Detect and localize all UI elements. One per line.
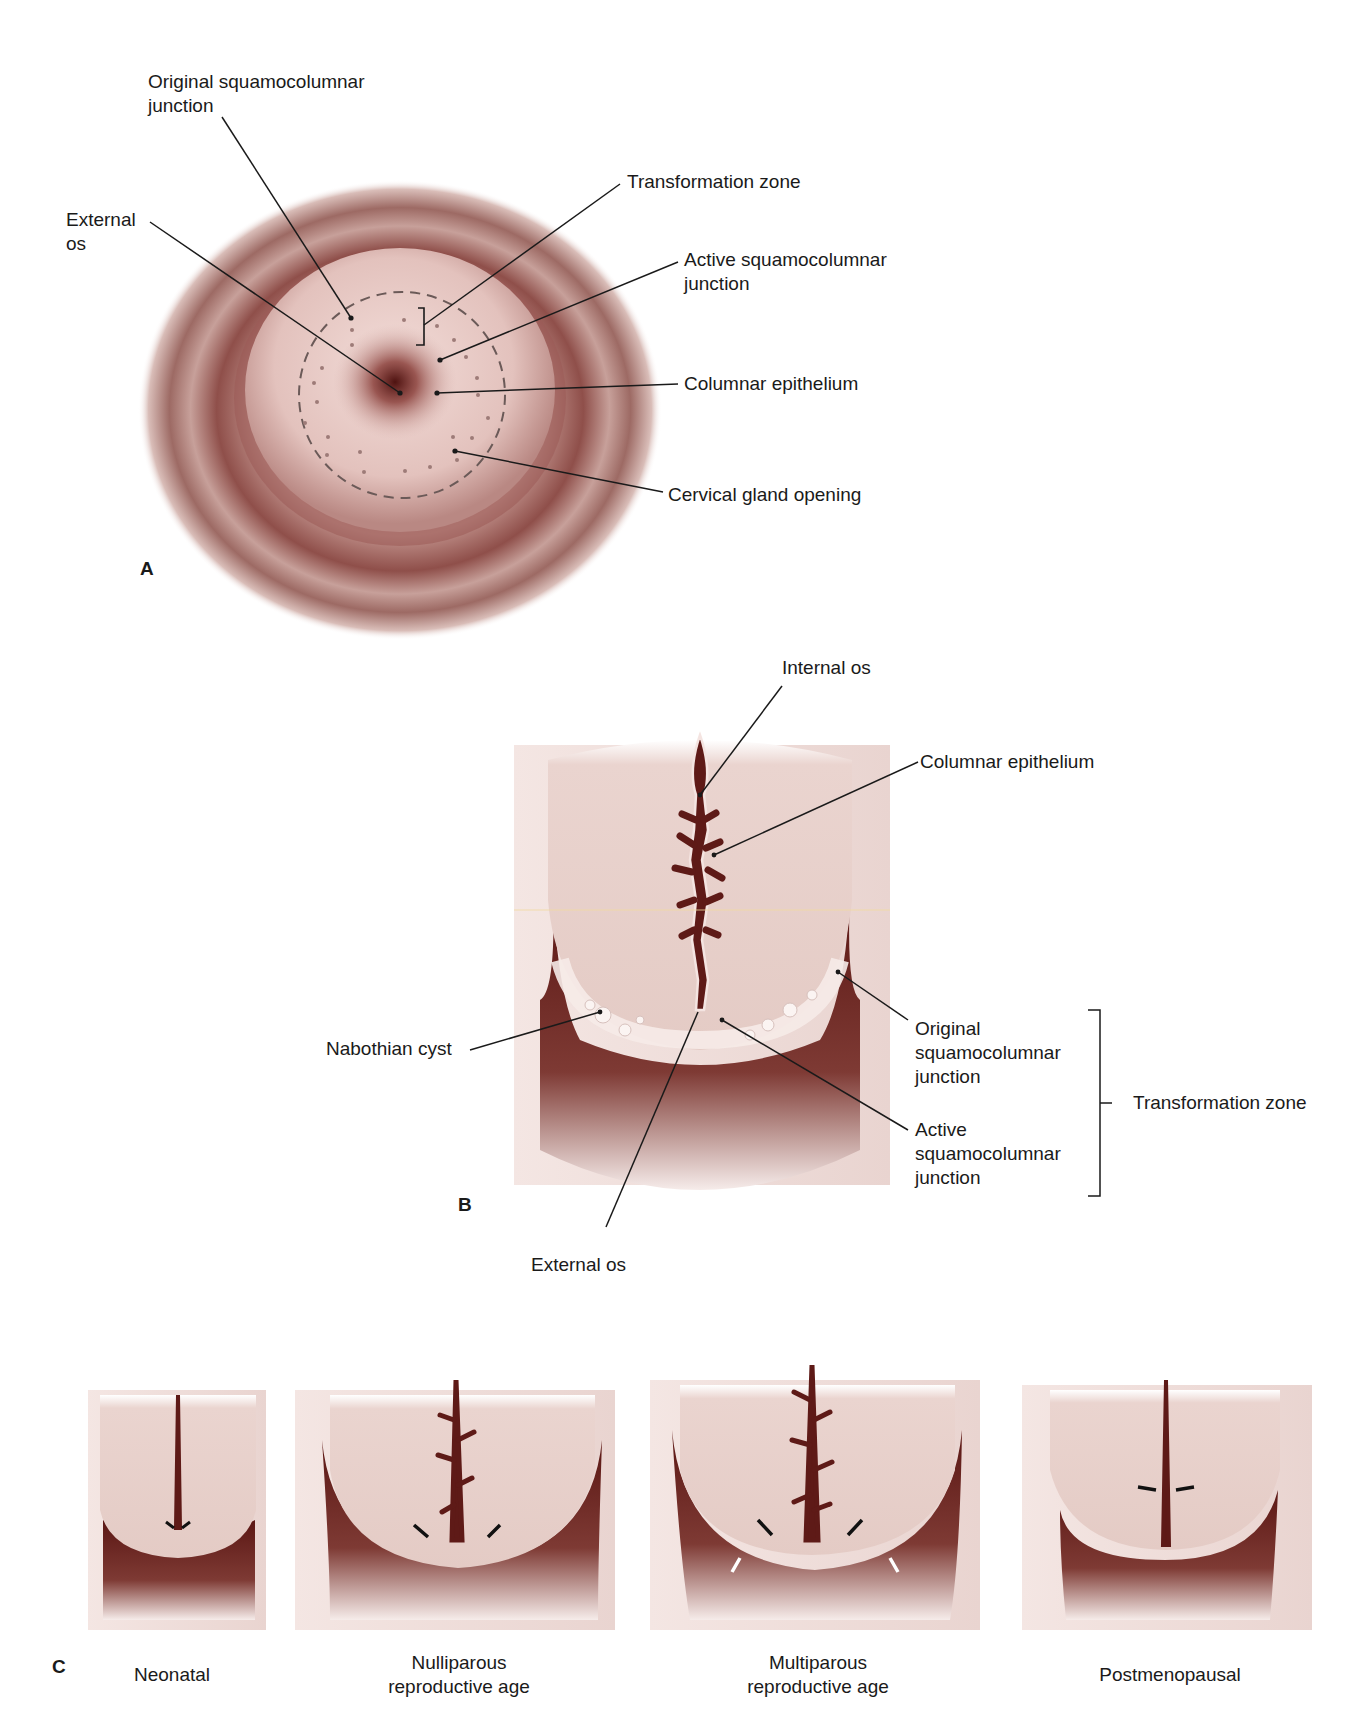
label-external-os: External os — [66, 208, 136, 256]
label-active-squamocolumnar-junction-b: Active squamocolumnar junction — [915, 1118, 1061, 1190]
label-cervical-gland-opening: Cervical gland opening — [668, 483, 861, 507]
stage-label-neonatal: Neonatal — [134, 1663, 210, 1687]
stage-label-postmenopausal: Postmenopausal — [1099, 1663, 1241, 1687]
label-transformation-zone-b: Transformation zone — [1133, 1091, 1307, 1115]
transformation-zone-bracket — [1088, 1010, 1112, 1196]
panel-letter-c: C — [52, 1656, 66, 1678]
label-original-squamocolumnar-junction: Original squamocolumnar junction — [148, 70, 365, 118]
label-internal-os: Internal os — [782, 656, 871, 680]
label-columnar-epithelium: Columnar epithelium — [684, 372, 858, 396]
label-active-squamocolumnar-junction: Active squamocolumnar junction — [684, 248, 887, 296]
panel-c-stage-neonatal — [88, 1390, 266, 1630]
label-nabothian-cyst: Nabothian cyst — [326, 1037, 452, 1061]
panel-b-cervix-section — [514, 735, 890, 1190]
panel-c-stage-multiparous — [650, 1365, 980, 1630]
label-transformation-zone: Transformation zone — [627, 170, 801, 194]
panel-letter-b: B — [458, 1194, 472, 1216]
panel-a-cervix-face — [138, 180, 662, 640]
panel-letter-a: A — [140, 558, 154, 580]
stage-label-multiparous: Multiparous reproductive age — [747, 1651, 889, 1699]
panel-c-stage-nulliparous — [295, 1380, 615, 1630]
panel-c-stage-postmenopausal — [1022, 1380, 1312, 1630]
stage-label-nulliparous: Nulliparous reproductive age — [388, 1651, 530, 1699]
label-original-squamocolumnar-junction-b: Original squamocolumnar junction — [915, 1017, 1061, 1089]
label-external-os-b: External os — [531, 1253, 626, 1277]
label-columnar-epithelium-b: Columnar epithelium — [920, 750, 1094, 774]
